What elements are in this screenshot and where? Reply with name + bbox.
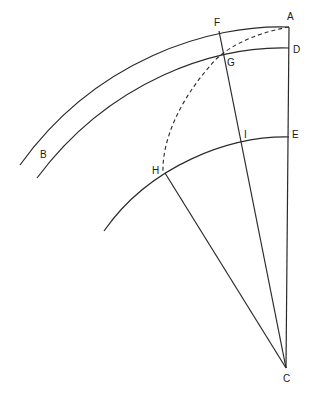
lower-arc <box>104 137 289 231</box>
label-C: C <box>283 373 290 384</box>
label-G: G <box>227 57 235 68</box>
label-A: A <box>287 11 294 22</box>
label-F: F <box>214 17 220 28</box>
line-HC <box>165 173 286 368</box>
outer-arc <box>20 27 289 165</box>
geometry-diagram: A F D G I E B H C <box>0 0 314 398</box>
label-E: E <box>292 129 299 140</box>
line-FC <box>219 31 286 368</box>
label-I: I <box>244 129 247 140</box>
label-B: B <box>40 149 47 160</box>
inner-arc <box>37 48 289 178</box>
label-D: D <box>293 44 300 55</box>
line-AC <box>286 27 289 368</box>
label-H: H <box>152 165 159 176</box>
